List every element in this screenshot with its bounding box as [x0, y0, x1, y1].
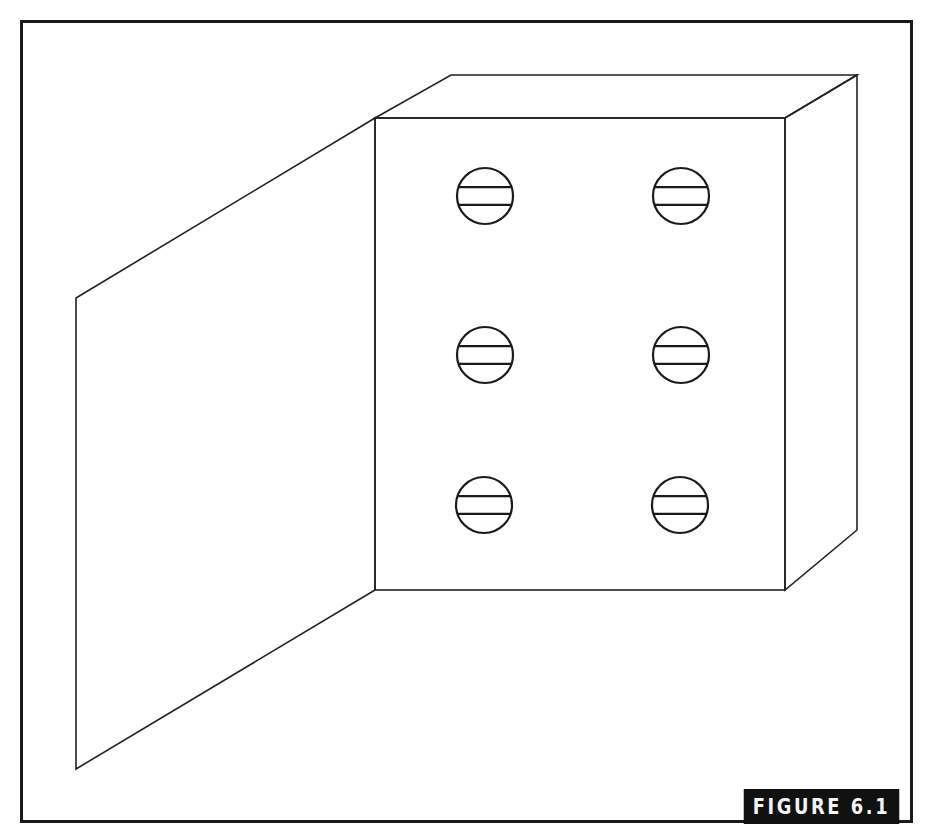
screw-bottom-left-icon [456, 477, 512, 533]
figure-caption: FIGURE 6.1 [744, 789, 900, 824]
box-top-face [375, 75, 857, 118]
screw-middle-left-icon [457, 327, 513, 383]
screw-top-left-icon [457, 168, 513, 224]
screw-middle-right-icon [653, 327, 709, 383]
screw-group [456, 168, 709, 533]
box-right-face [785, 75, 857, 590]
cabinet-drawing [0, 0, 935, 840]
screw-top-right-icon [653, 168, 709, 224]
door-panel [76, 118, 375, 769]
box-front-face [375, 118, 785, 590]
screw-bottom-right-icon [652, 477, 708, 533]
